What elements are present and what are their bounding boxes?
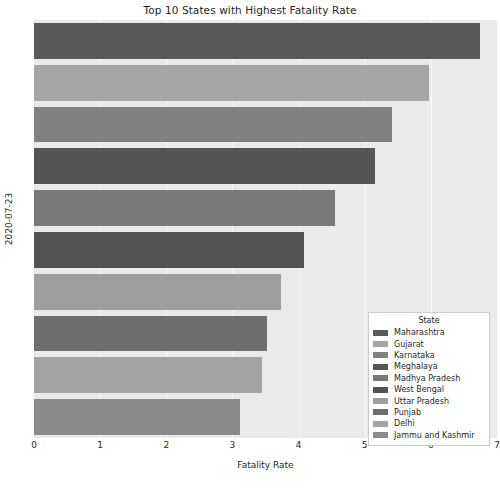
bar: [34, 316, 267, 352]
bar: [34, 190, 335, 226]
legend-item[interactable]: Uttar Pradesh: [373, 395, 485, 406]
chart-title: Top 10 States with Highest Fatality Rate: [0, 4, 500, 16]
legend-swatch-icon: [373, 409, 388, 415]
bar: [34, 232, 304, 268]
legend-item-label: West Bengal: [394, 384, 444, 395]
legend: State MaharashtraGujaratKarnatakaMeghala…: [368, 312, 490, 446]
bar: [34, 23, 480, 59]
legend-item-label: Uttar Pradesh: [394, 396, 449, 407]
x-tick-label: 7: [494, 440, 500, 450]
legend-item-label: Delhi: [394, 418, 415, 429]
legend-swatch-icon: [373, 432, 388, 438]
x-tick-label: 1: [97, 440, 103, 450]
y-axis-label: 2020-07-23: [0, 0, 18, 438]
bar: [34, 274, 281, 310]
legend-item-label: Jammu and Kashmir: [394, 430, 475, 441]
legend-item-label: Meghalaya: [394, 361, 438, 372]
x-tick-label: 4: [296, 440, 302, 450]
x-tick-label: 5: [362, 440, 368, 450]
x-tick-label: 3: [230, 440, 236, 450]
legend-swatch-icon: [373, 352, 388, 358]
bar: [34, 357, 262, 393]
legend-item-label: Karnataka: [394, 350, 435, 361]
legend-item[interactable]: Maharashtra: [373, 327, 485, 338]
legend-swatch-icon: [373, 375, 388, 381]
legend-item-label: Gujarat: [394, 339, 424, 350]
legend-item[interactable]: Jammu and Kashmir: [373, 430, 485, 441]
legend-swatch-icon: [373, 387, 388, 393]
legend-swatch-icon: [373, 330, 388, 336]
legend-item-label: Madhya Pradesh: [394, 373, 460, 384]
legend-title: State: [373, 316, 485, 325]
x-tick-label: 0: [31, 440, 37, 450]
legend-swatch-icon: [373, 341, 388, 347]
legend-item[interactable]: Madhya Pradesh: [373, 373, 485, 384]
x-tick-label: 2: [163, 440, 169, 450]
legend-item[interactable]: Punjab: [373, 407, 485, 418]
legend-swatch-icon: [373, 421, 388, 427]
legend-item[interactable]: Delhi: [373, 418, 485, 429]
legend-item-label: Punjab: [394, 407, 421, 418]
legend-item[interactable]: West Bengal: [373, 384, 485, 395]
bar: [34, 65, 429, 101]
legend-item[interactable]: Meghalaya: [373, 361, 485, 372]
legend-item[interactable]: Gujarat: [373, 338, 485, 349]
bottom-caption: [2, 494, 302, 504]
legend-item[interactable]: Karnataka: [373, 350, 485, 361]
legend-item-label: Maharashtra: [394, 327, 445, 338]
legend-rows: MaharashtraGujaratKarnatakaMeghalayaMadh…: [373, 327, 485, 441]
x-axis-label: Fatality Rate: [34, 460, 497, 470]
bar: [34, 399, 240, 435]
legend-swatch-icon: [373, 364, 388, 370]
bar: [34, 107, 392, 143]
y-axis-label-text: 2020-07-23: [4, 193, 14, 245]
bar: [34, 148, 375, 184]
figure: Top 10 States with Highest Fatality Rate…: [0, 0, 500, 504]
legend-swatch-icon: [373, 398, 388, 404]
